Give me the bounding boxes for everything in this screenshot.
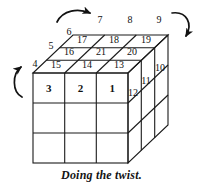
cube-diagram: 3 2 1 15 14 13 16 21 20 17 18 19 12 11 1… bbox=[0, 0, 203, 190]
sticker-2: 2 bbox=[78, 82, 84, 94]
sticker-19: 19 bbox=[141, 34, 151, 45]
sticker-9: 9 bbox=[157, 14, 162, 25]
sticker-16: 16 bbox=[64, 46, 74, 57]
front-face-numbers: 3 2 1 bbox=[46, 82, 115, 94]
sticker-21: 21 bbox=[96, 46, 106, 57]
sticker-12: 12 bbox=[128, 87, 138, 98]
right-rotation-arrow bbox=[172, 13, 189, 36]
sticker-20: 20 bbox=[127, 46, 137, 57]
left-rotation-arrow bbox=[14, 67, 22, 97]
sticker-17: 17 bbox=[77, 34, 87, 45]
sticker-7: 7 bbox=[98, 14, 103, 25]
sticker-14: 14 bbox=[82, 59, 92, 70]
sticker-1: 1 bbox=[109, 82, 115, 94]
sticker-4: 4 bbox=[33, 58, 38, 69]
sticker-3: 3 bbox=[46, 82, 52, 94]
top-rotation-arrow bbox=[57, 10, 90, 22]
sticker-13: 13 bbox=[114, 59, 124, 70]
sticker-10: 10 bbox=[155, 62, 165, 73]
figure-caption: Doing the twist. bbox=[0, 168, 203, 183]
top-face-numbers: 15 14 13 16 21 20 17 18 19 bbox=[51, 34, 151, 70]
sticker-5: 5 bbox=[49, 40, 54, 51]
sticker-8: 8 bbox=[128, 14, 133, 25]
sticker-11: 11 bbox=[141, 75, 151, 86]
sticker-18: 18 bbox=[109, 34, 119, 45]
sticker-6: 6 bbox=[67, 26, 72, 37]
figure-container: 3 2 1 15 14 13 16 21 20 17 18 19 12 11 1… bbox=[0, 0, 203, 190]
sticker-15: 15 bbox=[51, 59, 61, 70]
